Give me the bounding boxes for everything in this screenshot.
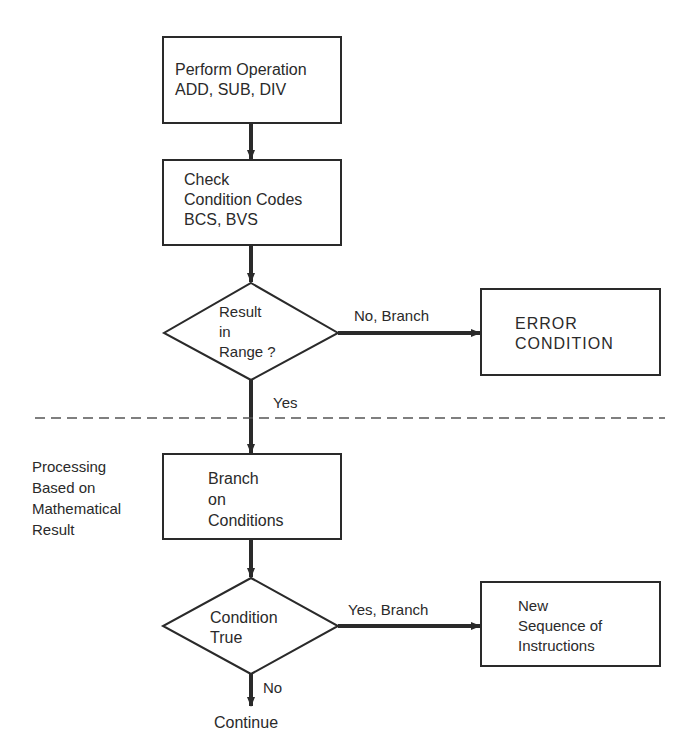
new-sequence-line-1: New	[518, 596, 602, 616]
side-note-line-4: Result	[32, 519, 121, 540]
result-line-1: Result	[219, 302, 276, 322]
continue-label: Continue	[214, 713, 278, 733]
yes-text: Yes	[273, 393, 297, 413]
side-note-line-2: Based on	[32, 477, 121, 498]
branch-line-2: on	[208, 489, 284, 510]
new-sequence-label: New Sequence of Instructions	[518, 596, 602, 656]
check-condition-codes-label: Check Condition Codes BCS, BVS	[184, 170, 302, 230]
check-line-1: Check	[184, 170, 302, 190]
result-line-3: Range ?	[219, 342, 276, 362]
continue-text: Continue	[214, 713, 278, 733]
side-note: Processing Based on Mathematical Result	[32, 456, 121, 540]
yes-edge-label: Yes	[273, 393, 297, 413]
no-branch-edge-label: No, Branch	[354, 306, 429, 326]
result-in-range-label: Result in Range ?	[219, 302, 276, 362]
perform-operation-line-1: Perform Operation	[175, 60, 307, 80]
condition-true-label: Condition True	[210, 608, 278, 648]
side-note-line-1: Processing	[32, 456, 121, 477]
new-sequence-line-2: Sequence of	[518, 616, 602, 636]
result-line-2: in	[219, 322, 276, 342]
no-edge-label: No	[263, 678, 282, 698]
no-text: No	[263, 678, 282, 698]
branch-on-conditions-label: Branch on Conditions	[208, 468, 284, 531]
yes-branch-text: Yes, Branch	[348, 600, 428, 620]
perform-operation-label: Perform Operation ADD, SUB, DIV	[175, 60, 307, 100]
check-line-2: Condition Codes	[184, 190, 302, 210]
condition-line-2: True	[210, 628, 278, 648]
condition-line-1: Condition	[210, 608, 278, 628]
no-branch-text: No, Branch	[354, 306, 429, 326]
branch-line-1: Branch	[208, 468, 284, 489]
error-line-2: CONDITION	[515, 334, 614, 354]
check-line-3: BCS, BVS	[184, 210, 302, 230]
yes-branch-edge-label: Yes, Branch	[348, 600, 428, 620]
error-condition-label: ERROR CONDITION	[515, 314, 614, 354]
perform-operation-line-2: ADD, SUB, DIV	[175, 80, 307, 100]
branch-line-3: Conditions	[208, 510, 284, 531]
new-sequence-line-3: Instructions	[518, 636, 602, 656]
error-line-1: ERROR	[515, 314, 614, 334]
side-note-line-3: Mathematical	[32, 498, 121, 519]
